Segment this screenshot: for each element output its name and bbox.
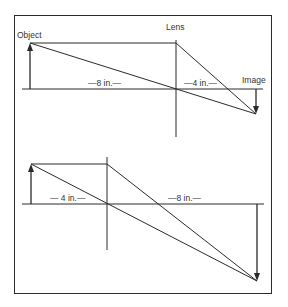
object-distance-label: — 4 in.— <box>50 193 86 203</box>
image-distance-label: —8 in.— <box>168 193 202 203</box>
top-panel: Object Lens Image —8 in.— —4 in.— <box>17 22 266 137</box>
object-distance-label: —8 in.— <box>88 78 122 88</box>
ray-diagram: Object Lens Image —8 in.— —4 in.— — 4 in… <box>0 0 288 307</box>
object-label: Object <box>17 30 42 40</box>
lens-label: Lens <box>166 22 184 32</box>
refracted-ray <box>107 164 257 281</box>
bottom-panel: — 4 in.— —8 in.— <box>22 157 264 281</box>
object-arrow-head-icon <box>27 43 33 51</box>
frame-border <box>15 16 272 294</box>
image-distance-label: —4 in.— <box>184 78 218 88</box>
chief-ray <box>30 43 256 114</box>
image-label: Image <box>242 75 266 85</box>
chief-ray <box>31 164 257 281</box>
